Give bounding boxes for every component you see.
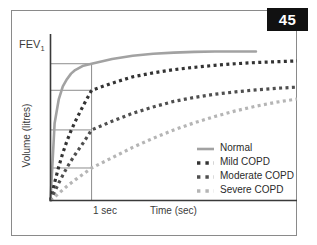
x-axis-tick-1sec: 1 sec (93, 205, 117, 216)
legend-label: Moderate COPD (220, 170, 294, 181)
legend-item-moderate-copd[interactable]: Moderate COPD (196, 168, 296, 182)
legend-label: Normal (220, 142, 252, 153)
fev1-axis-label: FEV1 (19, 38, 45, 53)
legend-swatch-icon (196, 155, 215, 167)
legend-swatch-icon (196, 141, 215, 153)
x-axis-title: Time (sec) (150, 205, 197, 216)
legend-swatch-icon (196, 169, 215, 181)
y-axis-title: Volume (litres) (21, 93, 32, 179)
legend-item-severe-copd[interactable]: Severe COPD (196, 182, 296, 196)
figure-container: 45 FEV1 Volume (litres) 1 sec Time (sec)… (0, 0, 317, 245)
chart-legend: NormalMild COPDModerate COPDSevere COPD (196, 140, 296, 196)
legend-swatch-icon (196, 183, 215, 195)
legend-item-normal[interactable]: Normal (196, 140, 296, 154)
legend-label: Mild COPD (220, 156, 270, 167)
legend-item-mild-copd[interactable]: Mild COPD (196, 154, 296, 168)
legend-label: Severe COPD (220, 184, 283, 195)
